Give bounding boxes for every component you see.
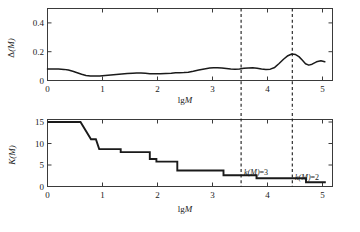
bottom-yaxis-title: K(M)	[7, 145, 17, 166]
top-panel-frame	[48, 9, 333, 81]
annotation-k2-suffix: =2	[311, 173, 320, 182]
panel-top: 0 0.2 0.4 0 1 2 3 4 5 lgM Δ(M)	[6, 9, 333, 106]
annotation-k2: k(M)=2	[295, 173, 319, 182]
panel-bottom: 0 5 10 15 0 1 2 3 4 5 lgM K(M)	[7, 117, 333, 214]
top-xtick-label-5: 5	[320, 84, 325, 94]
top-xtick-label-1: 1	[100, 84, 105, 94]
top-xtick-label-0: 0	[45, 84, 50, 94]
top-yaxis-title-arg: (M)	[6, 38, 16, 52]
bottom-xtick-label-5: 5	[320, 190, 325, 200]
top-ytick-label-0: 0	[40, 76, 45, 86]
top-yaxis-title: Δ(M)	[6, 38, 16, 57]
bottom-xtick-label-3: 3	[210, 190, 215, 200]
figure-container: 0 0.2 0.4 0 1 2 3 4 5 lgM Δ(M)	[0, 0, 360, 232]
top-xtick-label-3: 3	[210, 84, 215, 94]
top-xtick-label-2: 2	[155, 84, 160, 94]
bottom-xtick-label-0: 0	[45, 190, 50, 200]
bottom-xtick-label-1: 1	[100, 190, 105, 200]
bottom-xaxis-title-var: M	[184, 204, 193, 214]
bottom-xaxis-title: lgM	[178, 204, 193, 214]
bottom-xtick-label-2: 2	[155, 190, 160, 200]
bottom-ytick-label-0: 0	[40, 182, 45, 192]
top-ytick-label-2: 0.4	[33, 18, 45, 28]
top-xtick-label-4: 4	[265, 84, 270, 94]
top-xaxis-title-var: M	[184, 95, 193, 105]
two-panel-plot: 0 0.2 0.4 0 1 2 3 4 5 lgM Δ(M)	[0, 0, 360, 232]
bottom-panel-frame	[48, 120, 333, 187]
top-xaxis-title: lgM	[178, 95, 193, 105]
bottom-xtick-label-4: 4	[265, 190, 270, 200]
bottom-yaxis-title-arg: (M)	[7, 145, 17, 159]
annotation-k2-arg: (M)	[299, 173, 311, 182]
annotation-k3-suffix: =3	[260, 168, 269, 177]
bottom-ytick-label-3: 15	[35, 117, 45, 127]
bottom-ytick-label-1: 5	[40, 160, 45, 170]
annotation-k3-arg: (M)	[248, 168, 260, 177]
top-ytick-label-1: 0.2	[33, 47, 44, 57]
annotation-k3: k(M)=3	[244, 168, 268, 177]
bottom-ytick-label-2: 10	[35, 139, 45, 149]
